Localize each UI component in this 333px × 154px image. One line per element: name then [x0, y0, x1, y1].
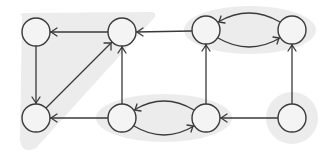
directed-graph-diagram [0, 0, 333, 154]
node-h [278, 104, 306, 132]
node-g [192, 104, 220, 132]
node-c [192, 16, 220, 44]
node-d [278, 16, 306, 44]
node-f [108, 104, 136, 132]
node-a [22, 18, 50, 46]
node-e [22, 104, 50, 132]
node-b [108, 18, 136, 46]
edge-c-to-b [136, 31, 192, 32]
component-regions [20, 6, 318, 150]
